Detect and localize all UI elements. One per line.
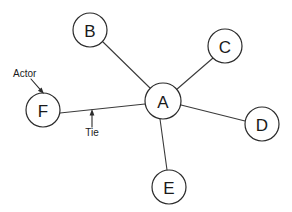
edge-a-d [181,105,245,121]
node-b[interactable]: B [73,13,107,47]
actor-annotation: Actor [13,68,44,94]
node-f-label: F [38,102,48,121]
edge-a-b [103,42,150,88]
network-graph-canvas: A B C D E F [0,0,292,212]
node-e[interactable]: E [152,170,186,204]
node-c[interactable]: C [208,29,242,63]
node-f[interactable]: F [26,93,60,127]
node-a[interactable]: A [145,83,181,119]
node-a-label: A [157,93,169,112]
node-d[interactable]: D [245,107,279,141]
actor-annotation-label: Actor [13,68,37,79]
node-group: A B C D E F [26,13,279,204]
node-c-label: C [219,38,231,57]
network-diagram: A B C D E F [0,0,292,212]
edge-a-f [60,104,145,113]
edge-a-c [176,58,213,90]
tie-annotation: Tie [85,109,99,138]
edge-a-e [160,119,167,170]
node-e-label: E [163,179,174,198]
actor-annotation-arrow-line [31,79,41,90]
node-d-label: D [256,116,268,135]
node-b-label: B [84,22,95,41]
tie-annotation-label: Tie [85,127,99,138]
